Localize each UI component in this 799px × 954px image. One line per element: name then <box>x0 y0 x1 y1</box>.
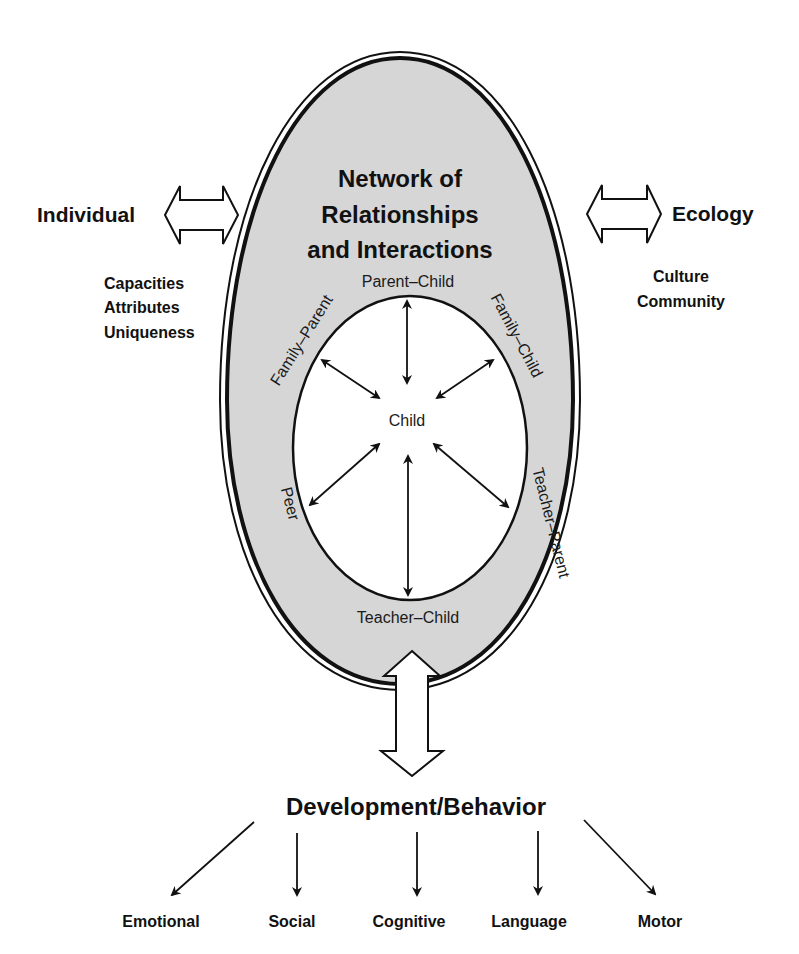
label-development-behavior: Development/Behavior <box>286 793 546 820</box>
label-teacher-child: Teacher–Child <box>357 609 459 626</box>
network-title-line-3: and Interactions <box>307 236 492 263</box>
down-arrow-icon <box>381 651 443 776</box>
label-individual: Individual <box>37 203 135 226</box>
domain-motor: Motor <box>638 913 682 930</box>
label-ecology: Ecology <box>672 202 754 225</box>
network-title-line-2: Relationships <box>321 201 478 228</box>
label-child: Child <box>389 412 425 429</box>
arrow-emotional <box>172 822 254 895</box>
relationship-network-diagram: Network of Relationships and Interaction… <box>0 0 799 954</box>
domain-language: Language <box>491 913 567 930</box>
label-parent-child: Parent–Child <box>362 273 455 290</box>
individual-attr-3: Uniqueness <box>104 324 195 341</box>
inner-ellipse <box>293 296 527 600</box>
outcome-arrows <box>172 820 655 895</box>
individual-attr-1: Capacities <box>104 275 184 292</box>
ecology-attr-2: Community <box>637 293 725 310</box>
domain-cognitive: Cognitive <box>373 913 446 930</box>
ecology-attr-1: Culture <box>653 268 709 285</box>
double-arrow-left-icon <box>165 186 238 244</box>
domain-emotional: Emotional <box>122 913 199 930</box>
individual-attr-2: Attributes <box>104 299 180 316</box>
network-title-line-1: Network of <box>338 165 463 192</box>
double-arrow-right-icon <box>587 185 661 243</box>
domain-social: Social <box>268 913 315 930</box>
arrow-motor <box>584 820 655 894</box>
